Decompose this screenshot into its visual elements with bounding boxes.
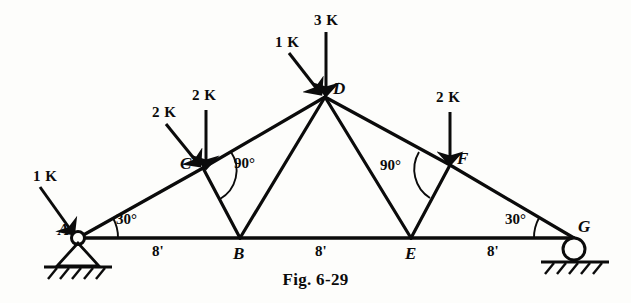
span-label-A-B: 8' bbox=[152, 244, 164, 259]
angle-arc-G bbox=[534, 218, 539, 238]
support-roller-G bbox=[541, 238, 609, 274]
angle-arc-F bbox=[414, 152, 430, 198]
node-label-B: B bbox=[233, 245, 244, 262]
member-F-G bbox=[450, 165, 574, 238]
node-label-E: E bbox=[405, 245, 416, 262]
member-C-B bbox=[203, 168, 240, 238]
node-label-A: A bbox=[58, 221, 69, 238]
member-D-F bbox=[325, 97, 450, 165]
angle-label-F-90deg: 90° bbox=[380, 158, 401, 173]
span-label-B-E: 8' bbox=[315, 244, 327, 259]
member-C-D bbox=[203, 97, 325, 168]
node-label-G: G bbox=[578, 218, 590, 235]
load-label-D-1k-perp: 1 K bbox=[275, 35, 299, 50]
figure-caption: Fig. 6-29 bbox=[0, 270, 631, 290]
angle-label-C-90deg: 90° bbox=[234, 156, 255, 171]
load-label-D-3k-vertical: 3 K bbox=[314, 13, 338, 28]
load-arrow-D-1k-perp bbox=[289, 53, 317, 89]
figure-container: A B C D E F G 1 K 2 K 2 K 1 K 3 K 2 K 30… bbox=[0, 0, 631, 303]
load-label-C-2k-vertical: 2 K bbox=[192, 88, 216, 103]
load-label-A-1k: 1 K bbox=[33, 169, 57, 184]
angle-label-A-30deg: 30° bbox=[116, 212, 137, 227]
span-label-E-G: 8' bbox=[487, 244, 499, 259]
angle-arcs bbox=[113, 152, 539, 238]
roller-circle-G bbox=[563, 238, 585, 260]
load-label-C-2k-perp: 2 K bbox=[152, 105, 176, 120]
angle-label-G-30deg: 30° bbox=[505, 212, 526, 227]
node-label-D: D bbox=[333, 80, 345, 97]
node-label-C: C bbox=[180, 155, 191, 172]
load-label-F-2k-vertical: 2 K bbox=[436, 90, 460, 105]
member-E-F bbox=[411, 165, 450, 238]
pin-triangle-A bbox=[57, 243, 99, 266]
member-A-C bbox=[78, 168, 203, 238]
node-label-F: F bbox=[457, 150, 468, 167]
